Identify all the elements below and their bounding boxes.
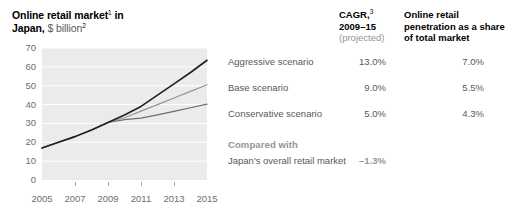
line-chart: 010203040506070 200520072009201120132015	[0, 0, 230, 216]
compared-with-label: Japan's overall retail market	[228, 155, 346, 166]
y-tick-label: 40	[2, 99, 36, 110]
scenario-label: Aggressive scenario	[228, 56, 314, 67]
chart-svg	[42, 48, 207, 180]
gridlines	[42, 48, 207, 161]
y-tick-label: 10	[2, 155, 36, 166]
scenario-cagr: 9.0%	[338, 82, 386, 93]
scenario-penetration: 7.0%	[404, 56, 484, 67]
scenario-cagr: 5.0%	[338, 108, 386, 119]
x-tick-label: 2005	[25, 193, 59, 204]
x-tick-label: 2011	[124, 193, 158, 204]
scenario-label: Base scenario	[228, 82, 288, 93]
compared-with-row: Japan's overall retail market –1.3%	[228, 155, 512, 167]
x-tick-mark	[75, 182, 76, 186]
y-tick-label: 20	[2, 136, 36, 147]
y-tick-label: 0	[2, 174, 36, 185]
y-tick-label: 60	[2, 61, 36, 72]
series-line	[42, 85, 207, 148]
compared-with-block: Compared with Japan's overall retail mar…	[228, 139, 512, 167]
scenario-penetration: 4.3%	[404, 108, 484, 119]
cagr-header-label: CAGR,	[339, 9, 370, 20]
cagr-footnote-3: 3	[370, 8, 374, 15]
cagr-column-header: CAGR,3 2009–15 (projected)	[339, 9, 409, 44]
cagr-header-years: 2009–15	[339, 21, 376, 32]
x-tick-label: 2009	[91, 193, 125, 204]
x-tick-label: 2013	[157, 193, 191, 204]
x-tick-label: 2015	[190, 193, 224, 204]
y-tick-label: 50	[2, 80, 36, 91]
x-tick-label: 2007	[58, 193, 92, 204]
scenario-cagr: 13.0%	[338, 56, 386, 67]
y-tick-label: 70	[2, 42, 36, 53]
x-tick-mark	[108, 182, 109, 186]
y-tick-label: 30	[2, 117, 36, 128]
penetration-column-header: Online retail penetration as a share of …	[404, 9, 508, 44]
scenario-penetration: 5.5%	[404, 82, 484, 93]
series-line	[42, 104, 207, 148]
cagr-header-note: (projected)	[339, 32, 384, 43]
x-tick-mark	[174, 182, 175, 186]
compared-with-title: Compared with	[228, 139, 512, 150]
x-tick-mark	[141, 182, 142, 186]
scenario-label: Conservative scenario	[228, 108, 322, 119]
compared-with-value: –1.3%	[338, 155, 386, 166]
